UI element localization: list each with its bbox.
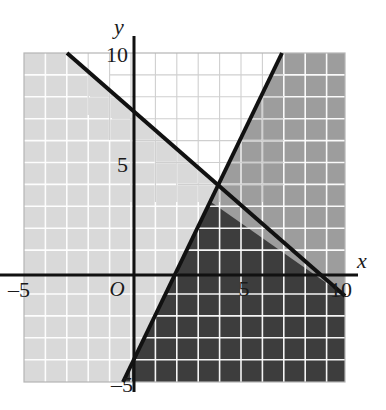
y-tick-5: 5 — [117, 152, 128, 177]
x-tick-neg5: –5 — [7, 277, 30, 302]
y-axis-label: y — [112, 14, 124, 39]
y-tick-neg5: –5 — [110, 372, 133, 397]
x-tick-5: 5 — [239, 276, 250, 301]
x-tick-10: 10 — [330, 277, 352, 302]
x-axis-label: x — [356, 248, 367, 273]
graph-svg: y x 10 5 –5 O –5 5 10 — [0, 0, 386, 410]
coordinate-plane-figure: y x 10 5 –5 O –5 5 10 — [0, 0, 386, 410]
origin-label: O — [109, 277, 124, 301]
y-tick-10: 10 — [106, 42, 128, 67]
